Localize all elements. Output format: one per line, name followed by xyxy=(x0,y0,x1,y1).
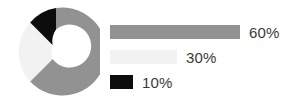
legend-item-10: 10% xyxy=(110,71,172,93)
legend-swatch-60 xyxy=(110,25,240,39)
legend-label-60: 60% xyxy=(249,25,279,40)
legend-label-30: 30% xyxy=(186,50,216,65)
donut-chart-figure: 60% 30% 10% xyxy=(0,0,296,106)
donut-slices xyxy=(19,8,100,96)
legend-swatch-30 xyxy=(110,50,177,64)
chart-legend: 60% 30% 10% xyxy=(110,16,296,96)
legend-label-10: 10% xyxy=(142,75,172,90)
donut-chart-graphic xyxy=(12,2,100,102)
legend-item-30: 30% xyxy=(110,46,216,68)
legend-swatch-10 xyxy=(110,75,133,89)
donut-svg xyxy=(12,2,100,102)
legend-item-60: 60% xyxy=(110,21,279,43)
